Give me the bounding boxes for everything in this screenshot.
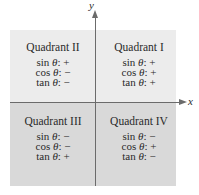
quadrant-iii: Quadrant III sin θ: − cos θ: − tan θ: +	[11, 114, 95, 161]
quadrant-title: Quadrant I	[97, 40, 181, 54]
sign-value: : −	[58, 76, 70, 88]
sign-value: : +	[144, 76, 156, 88]
function-name: tan	[122, 150, 135, 162]
y-axis-arrow-icon	[92, 10, 98, 18]
tan-sign: tan θ: +	[97, 77, 181, 87]
quadrant-ii: Quadrant II sin θ: + cos θ: − tan θ: −	[11, 40, 95, 87]
x-axis-label: x	[188, 95, 193, 107]
quadrant-iv: Quadrant IV sin θ: − cos θ: + tan θ: −	[97, 114, 181, 161]
quadrant-title: Quadrant II	[11, 40, 95, 54]
quadrant-title: Quadrant III	[11, 114, 95, 128]
x-axis	[10, 102, 182, 103]
sign-value: : −	[144, 150, 156, 162]
function-name: tan	[36, 76, 49, 88]
tan-sign: tan θ: −	[11, 77, 95, 87]
tan-sign: tan θ: +	[11, 151, 95, 161]
tan-sign: tan θ: −	[97, 151, 181, 161]
y-axis	[95, 14, 96, 186]
quadrant-i: Quadrant I sin θ: + cos θ: + tan θ: +	[97, 40, 181, 87]
function-name: tan	[122, 76, 135, 88]
function-name: tan	[36, 150, 49, 162]
y-axis-label: y	[89, 0, 94, 11]
sign-value: : +	[58, 150, 70, 162]
x-axis-arrow-icon	[179, 99, 187, 105]
quadrant-title: Quadrant IV	[97, 114, 181, 128]
